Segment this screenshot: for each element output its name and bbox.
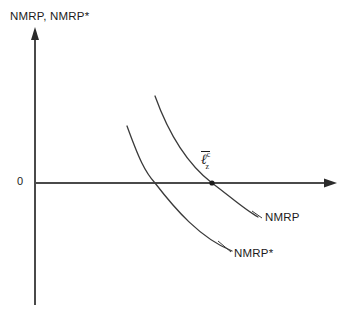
origin-label: 0: [17, 176, 23, 187]
curve-nmrp-star: [127, 126, 232, 251]
equilibrium-point-label: ℓcz: [201, 152, 214, 169]
economics-diagram: NMRP, NMRP* 0 NMRP NMRP* ℓcz: [0, 0, 350, 320]
y-axis-title: NMRP, NMRP*: [10, 11, 89, 23]
x-axis-arrowhead: [324, 179, 337, 188]
curve-label-nmrp-star: NMRP*: [234, 248, 273, 260]
equilibrium-dot: [209, 180, 214, 185]
equilibrium-symbol: ℓcz: [201, 152, 214, 169]
symbol-superscript: c: [207, 150, 211, 159]
symbol-subscript: z: [205, 162, 209, 171]
nmrp-star-leader-line: [218, 241, 231, 252]
curve-label-nmrp: NMRP: [265, 212, 300, 224]
plot-area: [0, 0, 350, 320]
y-axis-arrowhead: [31, 27, 39, 40]
